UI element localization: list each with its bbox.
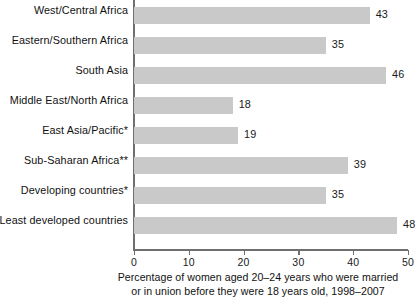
- bar: [134, 7, 370, 24]
- x-axis-tick: [134, 250, 135, 255]
- bar-value-label: 35: [332, 36, 344, 53]
- category-label: South Asia: [75, 64, 128, 77]
- x-axis-tick: [189, 250, 190, 255]
- category-label: Least developed countries: [0, 214, 128, 227]
- bar-row: Sub-Saharan Africa**39: [0, 150, 417, 180]
- bar-value-label: 19: [244, 126, 256, 143]
- x-axis-tick: [353, 250, 354, 255]
- category-label: West/Central Africa: [34, 4, 128, 17]
- x-axis-tick: [244, 250, 245, 255]
- bar-row: Least developed countries48: [0, 210, 417, 240]
- bar-row: South Asia46: [0, 60, 417, 90]
- bar-value-label: 48: [403, 216, 415, 233]
- caption-line-2: or in union before they were 18 years ol…: [108, 285, 408, 299]
- x-axis-line: [133, 249, 408, 251]
- category-label: Sub-Saharan Africa**: [24, 154, 128, 167]
- bar-row: Developing countries*35: [0, 180, 417, 210]
- category-label: Developing countries*: [21, 184, 128, 197]
- caption-line-1: Percentage of women aged 20–24 years who…: [108, 271, 408, 285]
- x-axis-tick: [408, 250, 409, 255]
- bar-value-label: 39: [354, 156, 366, 173]
- category-label: East Asia/Pacific*: [42, 124, 128, 137]
- x-axis-tick-label: 30: [292, 256, 304, 268]
- bar: [134, 67, 386, 84]
- bar: [134, 217, 397, 234]
- bar: [134, 37, 326, 54]
- bar-row: Eastern/Southern Africa35: [0, 30, 417, 60]
- bar-row: East Asia/Pacific*19: [0, 120, 417, 150]
- bar-value-label: 35: [332, 186, 344, 203]
- bar: [134, 97, 233, 114]
- x-axis-tick: [298, 250, 299, 255]
- x-axis-tick-label: 40: [347, 256, 359, 268]
- x-axis-tick-label: 20: [238, 256, 250, 268]
- category-label: Eastern/Southern Africa: [12, 34, 128, 47]
- x-axis-tick-label: 0: [131, 256, 137, 268]
- bar-row: West/Central Africa43: [0, 0, 417, 30]
- bar-value-label: 18: [239, 96, 251, 113]
- plot-area: West/Central Africa43Eastern/Southern Af…: [0, 0, 417, 250]
- bar: [134, 187, 326, 204]
- bar-value-label: 43: [376, 6, 388, 23]
- bar: [134, 157, 348, 174]
- bar: [134, 127, 238, 144]
- bar-value-label: 46: [392, 66, 404, 83]
- bar-row: Middle East/North Africa18: [0, 90, 417, 120]
- bar-chart: West/Central Africa43Eastern/Southern Af…: [0, 0, 417, 305]
- category-label: Middle East/North Africa: [10, 94, 128, 107]
- x-axis-tick-label: 50: [402, 256, 414, 268]
- x-axis-tick-label: 10: [183, 256, 195, 268]
- chart-caption: Percentage of women aged 20–24 years who…: [108, 271, 408, 298]
